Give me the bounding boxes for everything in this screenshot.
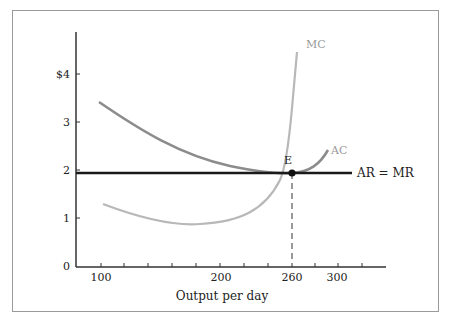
x-axis-title: Output per day	[176, 289, 269, 303]
x-tick-label-200: 200	[211, 271, 232, 284]
x-tick-label-300: 300	[327, 271, 348, 284]
y-tick-label-0: 0	[63, 260, 70, 273]
e-label: E	[284, 154, 292, 167]
x-tick-label-260: 260	[282, 271, 303, 284]
y-tick-label-2: 2	[63, 164, 70, 177]
y-tick-label-1: 1	[63, 212, 70, 225]
x-tick-label-100: 100	[91, 271, 112, 284]
y-tick-label-4: $4	[56, 68, 70, 81]
mc-label: MC	[306, 38, 326, 51]
equilibrium-point	[288, 169, 295, 176]
ar-mr-label: AR = MR	[356, 166, 415, 180]
y-tick-label-3: 3	[63, 116, 70, 129]
ac-curve	[99, 102, 328, 173]
ac-label: AC	[330, 144, 347, 157]
mc-curve	[103, 52, 297, 224]
economics-chart: $4 3 2 1 0 100 200 260 300 Output per da…	[0, 0, 458, 319]
